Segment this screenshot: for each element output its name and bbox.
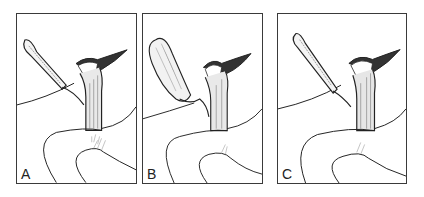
panel-c: C: [277, 13, 407, 184]
panel-label-b: B: [147, 167, 156, 181]
panel-label-c: C: [282, 167, 292, 181]
anatomy-illustration-c: [278, 14, 406, 183]
anatomy-illustration-b: [143, 14, 262, 183]
panel-a: A: [16, 13, 137, 184]
anatomy-illustration-a: [17, 14, 136, 183]
panel-label-a: A: [21, 167, 30, 181]
panel-b: B: [142, 13, 263, 184]
